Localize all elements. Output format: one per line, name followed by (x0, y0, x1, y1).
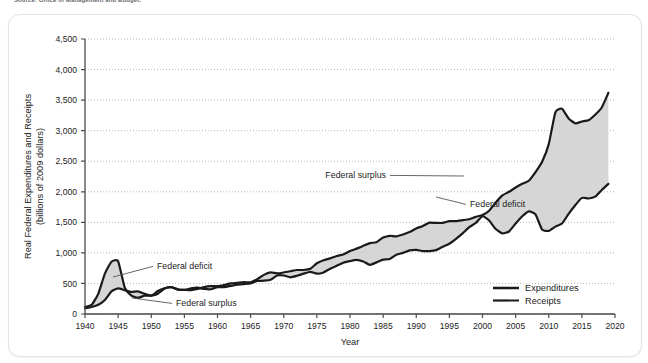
y-axis-title-line2: (billions of 2009 dollars) (35, 128, 45, 225)
y-tick-label: 4,500 (55, 34, 77, 44)
x-tick-label: 2000 (473, 321, 492, 331)
y-tick-label: 2,500 (55, 156, 77, 166)
x-tick-label: 1955 (175, 321, 194, 331)
y-tick-label: 3,500 (55, 95, 77, 105)
y-tick-label: 1,000 (55, 248, 77, 258)
annotation-leader-line (436, 197, 466, 204)
annotation-leader-line (390, 175, 464, 176)
source-note: Source: Office of Management and Budget. (14, 0, 141, 3)
y-tick-label: 3,000 (55, 126, 77, 136)
x-tick-label: 1945 (109, 321, 128, 331)
annotation-label: Federal surplus (325, 170, 386, 180)
y-tick-label: 0 (72, 309, 77, 319)
x-tick-label: 2015 (572, 321, 591, 331)
x-axis-title: Year (341, 337, 360, 347)
x-tick-label: 1995 (440, 321, 459, 331)
legend-label: Receipts (525, 296, 561, 306)
annotation-label: Federal deficit (157, 261, 213, 271)
y-axis-title-line1: Real Federal Expenditures and Receipts (23, 94, 33, 259)
annotation-leader-line (132, 298, 172, 303)
x-tick-label: 1940 (75, 321, 94, 331)
x-tick-label: 2010 (539, 321, 558, 331)
y-tick-label: 500 (63, 279, 78, 289)
y-tick-label: 1,500 (55, 217, 77, 227)
annotation-label: Federal deficit (470, 199, 526, 209)
deficit-surplus-band (85, 93, 608, 308)
x-tick-label: 2005 (506, 321, 525, 331)
x-tick-label: 1960 (208, 321, 227, 331)
chart-legend: ExpendituresReceipts (493, 283, 579, 306)
gap-band (85, 93, 608, 308)
x-tick-label: 1950 (142, 321, 161, 331)
x-tick-label: 1990 (407, 321, 426, 331)
x-tick-label: 1965 (241, 321, 260, 331)
federal-expenditures-receipts-chart: 05001,0001,5002,0002,5003,0003,5004,0004… (9, 15, 641, 356)
x-tick-label: 1975 (307, 321, 326, 331)
y-tick-label: 4,000 (55, 65, 77, 75)
legend-label: Expenditures (525, 283, 579, 293)
x-tick-label: 1970 (274, 321, 293, 331)
annotation-label: Federal surplus (176, 298, 237, 308)
x-tick-label: 1985 (374, 321, 393, 331)
x-tick-label: 2020 (605, 321, 624, 331)
x-tick-label: 1980 (340, 321, 359, 331)
figure-card: 05001,0001,5002,0002,5003,0003,5004,0004… (8, 14, 642, 357)
y-tick-label: 2,000 (55, 187, 77, 197)
